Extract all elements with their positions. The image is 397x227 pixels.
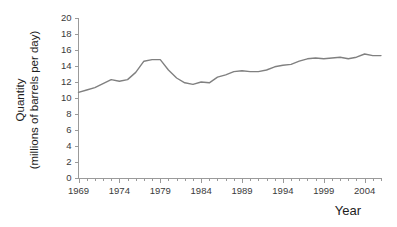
x-axis-title: Year: [335, 203, 362, 218]
y-tick-label: 14: [61, 60, 72, 71]
y-tick-label: 0: [66, 172, 71, 183]
x-tick-label: 1999: [313, 185, 334, 196]
x-tick-label: 1984: [191, 185, 212, 196]
y-axis-title-line1: Quantity: [14, 78, 26, 121]
y-tick-label: 16: [61, 44, 72, 55]
y-tick-label: 8: [66, 108, 71, 119]
x-tick-label: 1994: [272, 185, 293, 196]
y-tick-label: 4: [66, 140, 71, 151]
y-tick-label: 2: [66, 156, 71, 167]
x-tick-label: 1974: [109, 185, 130, 196]
x-tick-label: 1989: [231, 185, 252, 196]
line-chart: 02468101214161820 1969197419791984198919…: [0, 0, 397, 227]
x-tick-label: 2004: [354, 185, 375, 196]
x-tick-label: 1969: [68, 185, 89, 196]
y-tick-label: 6: [66, 124, 71, 135]
x-tick-label: 1979: [150, 185, 171, 196]
y-axis-title-line2: (millions of barrels per day): [28, 30, 40, 169]
chart-figure: 02468101214161820 1969197419791984198919…: [0, 0, 397, 227]
y-tick-label: 12: [61, 76, 72, 87]
y-tick-label: 20: [61, 12, 72, 23]
y-tick-label: 18: [61, 28, 72, 39]
y-tick-label: 10: [61, 92, 72, 103]
